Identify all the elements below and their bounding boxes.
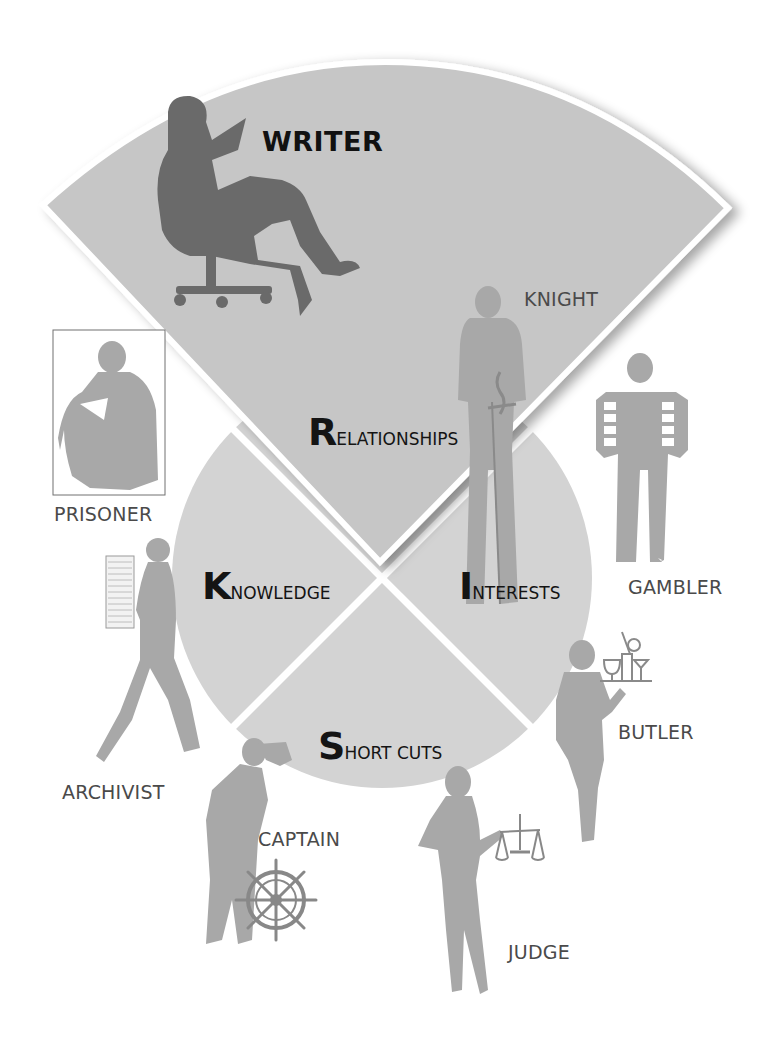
prisoner-silhouette-icon <box>53 330 165 495</box>
archivist-label: ARCHIVIST <box>62 783 164 802</box>
category-rest: ELATIONSHIPS <box>336 429 458 449</box>
captain-label: CAPTAIN <box>258 830 340 849</box>
scales-of-justice-icon <box>496 814 544 860</box>
ship-wheel-icon <box>236 860 316 940</box>
butler-label: BUTLER <box>618 723 694 742</box>
prisoner-label: PRISONER <box>54 505 152 524</box>
judge-label: JUDGE <box>508 943 570 962</box>
diagram-canvas <box>0 0 776 1054</box>
category-initial: S <box>318 724 344 768</box>
writer-label: WRITER <box>262 128 383 155</box>
gambler-silhouette-icon <box>596 353 688 562</box>
category-rest: HORT CUTS <box>344 743 442 763</box>
short-cuts-label: SHORT CUTS <box>318 727 442 765</box>
relationships-label: RELATIONSHIPS <box>308 413 458 451</box>
tray-drinks-icon <box>600 632 652 681</box>
gambler-label: GAMBLER <box>628 578 722 597</box>
knowledge-label: KNOWLEDGE <box>202 567 331 605</box>
paper-stack-icon <box>106 556 134 628</box>
category-initial: I <box>459 564 472 608</box>
category-initial: K <box>202 564 230 608</box>
category-rest: NOWLEDGE <box>230 583 330 603</box>
category-initial: R <box>308 410 336 454</box>
category-rest: NTERESTS <box>472 583 560 603</box>
interests-label: INTERESTS <box>459 567 561 605</box>
knight-label: KNIGHT <box>524 290 598 309</box>
